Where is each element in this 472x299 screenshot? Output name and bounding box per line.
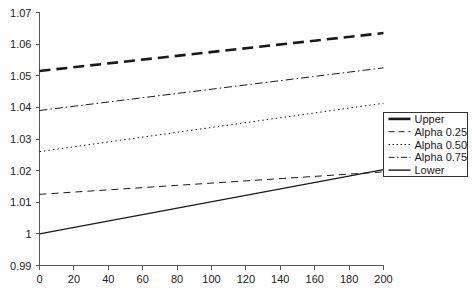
x-tick-label: 200 — [374, 273, 392, 285]
y-tick-label: 1.05 — [10, 70, 31, 82]
x-tick-label: 80 — [171, 273, 183, 285]
y-tick-label: 0.99 — [10, 260, 31, 272]
legend-label: Lower — [415, 164, 445, 176]
x-tick-label: 100 — [202, 273, 220, 285]
legend-label: Upper — [415, 113, 445, 125]
legend-label: Alpha 0.50 — [415, 139, 468, 151]
y-tick-label: 1.01 — [10, 196, 31, 208]
x-tick-label: 140 — [271, 273, 289, 285]
y-tick-label: 1.04 — [10, 101, 31, 113]
y-tick-label: 1.03 — [10, 133, 31, 145]
x-tick-label: 0 — [36, 273, 42, 285]
y-tick-label: 1.06 — [10, 38, 31, 50]
x-tick-label: 20 — [68, 273, 80, 285]
x-tick-label: 40 — [102, 273, 114, 285]
y-tick-label: 1 — [25, 228, 31, 240]
x-tick-label: 60 — [137, 273, 149, 285]
x-tick-label: 180 — [340, 273, 358, 285]
chart-page: 0.9911.011.021.031.041.051.061.07 020406… — [0, 0, 472, 299]
y-tick-label: 1.02 — [10, 165, 31, 177]
x-tick-label: 160 — [306, 273, 324, 285]
legend-label: Alpha 0.25 — [415, 126, 468, 138]
y-tick-label: 1.07 — [10, 7, 31, 19]
line-chart: 0.9911.011.021.031.041.051.061.07 020406… — [0, 0, 472, 299]
x-tick-label: 120 — [237, 273, 255, 285]
chart-legend[interactable]: UpperAlpha 0.25Alpha 0.50Alpha 0.75Lower — [384, 113, 468, 177]
legend-label: Alpha 0.75 — [415, 151, 468, 163]
